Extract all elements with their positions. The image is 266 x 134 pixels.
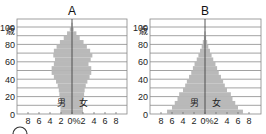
x-tick-label: 2: [213, 116, 218, 126]
y-tick-label: 60: [138, 57, 148, 67]
female-bar: [72, 110, 83, 114]
y-tick-label: 0: [10, 110, 15, 120]
male-label: 男: [190, 98, 199, 108]
female-bar: [72, 71, 91, 75]
x-tick-label: 0%: [67, 116, 80, 126]
y-tick-label: 40: [5, 75, 15, 85]
female-bar: [205, 79, 223, 83]
x-tick-label: 8: [158, 116, 163, 126]
female-bar: [72, 92, 84, 96]
male-bar: [60, 40, 72, 44]
male-bar: [187, 79, 205, 83]
x-tick-label: 6: [235, 116, 240, 126]
female-bar: [72, 36, 80, 40]
male-bar: [56, 79, 72, 83]
male-bar: [54, 75, 72, 79]
male-bar: [59, 92, 72, 96]
female-bar: [72, 57, 91, 61]
female-bar: [72, 44, 87, 48]
x-tick-label: 2: [191, 116, 196, 126]
female-bar: [205, 66, 217, 70]
male-bar: [202, 44, 205, 48]
female-bar: [205, 88, 227, 92]
x-tick-label: 4: [47, 116, 52, 126]
chart-title: A: [68, 4, 76, 18]
male-bar: [57, 44, 72, 48]
male-bar: [53, 53, 72, 57]
chart-title: B: [201, 4, 209, 18]
female-bar: [72, 53, 92, 57]
female-bar: [205, 49, 210, 53]
y-tick-label: 20: [5, 92, 15, 102]
x-tick-label: 4: [224, 116, 229, 126]
x-tick-label: 8: [25, 116, 30, 126]
female-bar: [205, 53, 212, 57]
female-bar: [205, 71, 219, 75]
female-bar: [72, 84, 86, 88]
male-label: 男: [57, 98, 66, 108]
male-bar: [167, 110, 205, 114]
male-bar: [54, 49, 72, 53]
male-bar: [179, 92, 205, 96]
male-bar: [191, 71, 205, 75]
female-bar: [205, 110, 243, 114]
female-bar: [205, 57, 213, 61]
x-tick-label: 6: [102, 116, 107, 126]
pyramid-a: 86420%2468020406080100歳A男女: [0, 4, 127, 126]
pyramid-b: 86420%2468020406080100歳B男女: [133, 4, 261, 126]
y-unit-label: 歳: [139, 25, 148, 36]
male-bar: [195, 62, 205, 66]
female-bar: [205, 44, 208, 48]
x-tick-label: 6: [169, 116, 174, 126]
male-bar: [185, 84, 205, 88]
male-bar: [60, 110, 72, 114]
x-tick-label: 2: [80, 116, 85, 126]
x-tick-label: 8: [246, 116, 251, 126]
question-number-circle: [13, 127, 27, 134]
male-bar: [54, 62, 72, 66]
male-bar: [198, 53, 205, 57]
female-bar: [205, 105, 238, 109]
male-bar: [59, 88, 72, 92]
male-bar: [183, 88, 205, 92]
y-tick-label: 40: [138, 75, 148, 85]
female-bar: [72, 66, 91, 70]
male-bar: [172, 105, 205, 109]
male-bar: [200, 49, 205, 53]
male-bar: [193, 66, 205, 70]
y-tick-label: 80: [138, 40, 148, 50]
x-tick-label: 2: [58, 116, 63, 126]
y-tick-label: 0: [143, 110, 148, 120]
male-bar: [58, 84, 72, 88]
x-tick-label: 4: [180, 116, 185, 126]
female-bar: [72, 31, 76, 35]
female-bar: [205, 75, 221, 79]
female-label: 女: [79, 97, 88, 108]
y-tick-label: 20: [138, 92, 148, 102]
female-label: 女: [212, 97, 221, 108]
female-bar: [72, 75, 90, 79]
female-bar: [72, 62, 89, 66]
male-bar: [64, 36, 72, 40]
male-bar: [52, 71, 72, 75]
male-bar: [197, 57, 205, 61]
x-tick-label: 0%: [200, 116, 213, 126]
female-bar: [72, 49, 90, 53]
x-tick-label: 8: [113, 116, 118, 126]
female-bar: [72, 79, 87, 83]
male-bar: [52, 66, 72, 70]
x-tick-label: 4: [91, 116, 96, 126]
male-bar: [67, 31, 72, 35]
population-pyramids: 86420%2468020406080100歳A男女 86420%2468020…: [0, 0, 266, 134]
x-tick-label: 6: [36, 116, 41, 126]
female-bar: [205, 84, 225, 88]
female-bar: [72, 88, 85, 92]
female-bar: [205, 92, 231, 96]
male-bar: [189, 75, 205, 79]
female-bar: [72, 40, 84, 44]
y-tick-label: 80: [5, 40, 15, 50]
female-bar: [205, 62, 215, 66]
male-bar: [55, 57, 72, 61]
y-tick-label: 60: [5, 57, 15, 67]
y-unit-label: 歳: [6, 25, 15, 36]
